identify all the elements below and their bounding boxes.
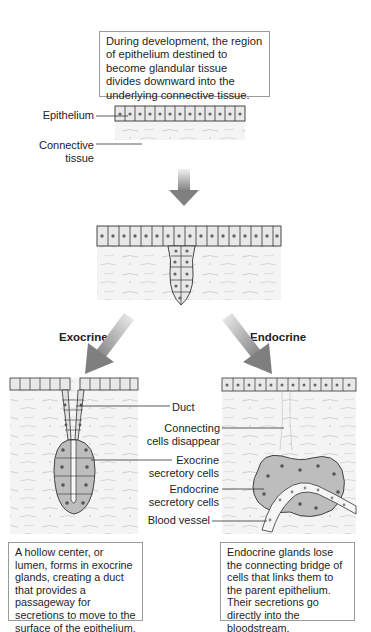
stage2-tissue [97, 226, 281, 305]
exocrine-gland [10, 378, 172, 534]
down-arrow-icon [169, 169, 199, 206]
exocrine-arrow-icon [85, 313, 134, 374]
endocrine-gland [212, 378, 356, 534]
gland-formation-illustration [0, 0, 371, 632]
endocrine-arrow-icon [222, 313, 272, 374]
stage1-tissue [96, 106, 245, 144]
